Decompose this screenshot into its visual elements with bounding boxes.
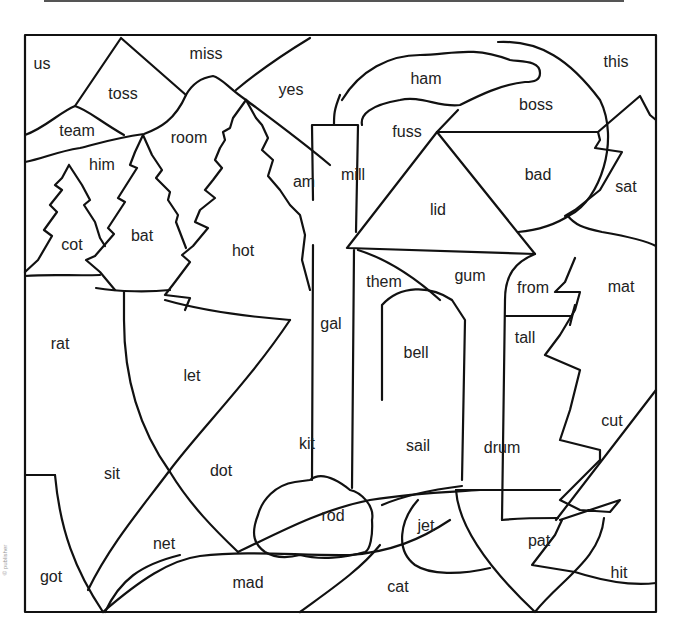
region-word-hot: hot xyxy=(232,242,255,259)
region-word-room: room xyxy=(171,129,207,146)
region-word-am: am xyxy=(293,173,315,190)
region-word-gum: gum xyxy=(454,267,485,284)
region-word-dot: dot xyxy=(210,462,233,479)
coloring-picture: usmisstossyesteamroomhimamcotbathothamth… xyxy=(0,0,679,637)
svg-text:© publisher: © publisher xyxy=(2,545,8,575)
region-word-gal: gal xyxy=(320,315,341,332)
region-word-net: net xyxy=(153,535,176,552)
region-word-let: let xyxy=(184,367,201,384)
region-word-boss: boss xyxy=(519,96,553,113)
region-word-sat: sat xyxy=(615,178,637,195)
region-word-bad: bad xyxy=(525,166,552,183)
region-word-jet: jet xyxy=(417,517,435,534)
region-word-bat: bat xyxy=(131,227,154,244)
region-word-team: team xyxy=(59,122,95,139)
region-word-cat: cat xyxy=(387,578,409,595)
region-word-pat: pat xyxy=(528,532,551,549)
region-word-kit: kit xyxy=(299,435,316,452)
region-word-cot: cot xyxy=(61,236,83,253)
region-word-fuss: fuss xyxy=(392,123,421,140)
region-word-mat: mat xyxy=(608,278,635,295)
region-word-got: got xyxy=(40,568,63,585)
region-word-drum: drum xyxy=(484,439,520,456)
region-word-rod: rod xyxy=(321,507,344,524)
region-word-from: from xyxy=(517,279,549,296)
region-word-rat: rat xyxy=(51,335,70,352)
region-word-mill: mill xyxy=(341,166,365,183)
region-word-toss: toss xyxy=(108,85,137,102)
region-word-yes: yes xyxy=(279,81,304,98)
region-word-him: him xyxy=(89,156,115,173)
region-word-ham: ham xyxy=(410,70,441,87)
region-word-sit: sit xyxy=(104,465,121,482)
region-word-them: them xyxy=(366,273,402,290)
region-word-this: this xyxy=(604,53,629,70)
region-word-miss: miss xyxy=(190,45,223,62)
copyright-credit: © publisher xyxy=(2,525,12,595)
region-word-tall: tall xyxy=(515,329,535,346)
region-word-mad: mad xyxy=(232,574,263,591)
region-word-lid: lid xyxy=(430,201,446,218)
region-word-hit: hit xyxy=(611,564,628,581)
region-word-sail: sail xyxy=(406,437,430,454)
region-word-cut: cut xyxy=(601,412,623,429)
region-word-bell: bell xyxy=(404,344,429,361)
region-word-us: us xyxy=(34,55,51,72)
